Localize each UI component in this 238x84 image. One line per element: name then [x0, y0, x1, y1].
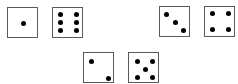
die-face-4: 4 [204, 6, 235, 37]
pip-dot [135, 59, 140, 64]
pip-dot [164, 12, 169, 17]
pip-dot [181, 28, 186, 33]
pip-dot [58, 12, 63, 17]
pip-dot [150, 75, 155, 80]
pip-dot [143, 67, 148, 72]
die-face-5: 5 [128, 52, 159, 83]
pip-dot [89, 59, 94, 64]
die-face-2: 2 [83, 52, 114, 83]
pip-dot [226, 11, 231, 16]
pip-dot [173, 20, 178, 25]
pip-dot [106, 76, 111, 81]
die-face-6: 6 [52, 7, 83, 38]
die-face-3: 3 [159, 6, 190, 37]
pip-dot [210, 27, 215, 32]
pip-dot [226, 27, 231, 32]
pip-dot [74, 12, 79, 17]
pip-dot [74, 28, 79, 33]
pip-dot [74, 20, 79, 25]
die-face-1: 1 [7, 7, 38, 38]
pip-dot [150, 59, 155, 64]
pip-dot [210, 11, 215, 16]
pip-dot [21, 21, 26, 26]
pip-dot [58, 28, 63, 33]
pip-dot [135, 75, 140, 80]
pip-dot [58, 20, 63, 25]
